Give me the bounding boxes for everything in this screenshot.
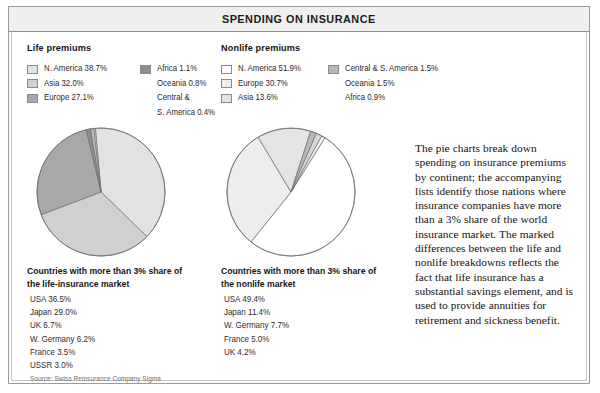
legend-swatch-asia [221, 94, 232, 103]
legend-label: Africa 0.9% [345, 92, 385, 104]
legend-label: Europe 30.7% [238, 78, 288, 90]
life-legend-column-1: N. America 38.7% Asia 32.0% Europe 27.1% [27, 63, 140, 121]
country-list-item: USA 36.5% [27, 293, 205, 306]
legend-label: N. America 38.7% [44, 63, 107, 75]
nonlife-country-items: USA 49.4%Japan 11.4%W. Germany 7.7%Franc… [221, 293, 411, 359]
country-list-item: USA 49.4% [221, 293, 403, 306]
country-list-item: France 5.0% [221, 333, 403, 346]
legend-item: Europe 30.7% [221, 78, 328, 93]
legend-swatch-spacer [328, 79, 339, 88]
legend-swatch-asia [27, 79, 38, 88]
life-legend: N. America 38.7% Asia 32.0% Europe 27.1%… [27, 63, 218, 121]
legend-label: Europe 27.1% [44, 92, 94, 104]
legend-swatch-spacer [140, 79, 151, 88]
legend-item: Africa 0.9% [328, 92, 442, 107]
legend-swatch-n-america [221, 65, 232, 74]
nonlife-premiums-heading: Nonlife premiums [221, 42, 300, 53]
legend-swatch-spacer [140, 94, 151, 103]
legend-label: Asia 32.0% [44, 78, 84, 90]
legend-item: S. America 0.4% [140, 107, 218, 122]
legend-item: N. America 51.9% [221, 63, 328, 78]
legend-item: Africa 1.1% [140, 63, 218, 78]
nonlife-legend: N. America 51.9% Europe 30.7% Asia 13.6%… [221, 63, 442, 107]
legend-swatch-n-america [27, 65, 38, 74]
country-list-item: UK 4.2% [221, 346, 403, 359]
nonlife-legend-column-2: Central & S. America 1.5% Oceania 1.5% A… [328, 63, 442, 107]
nonlife-country-list: Countries with more than 3% share of the… [221, 265, 411, 359]
legend-item: Asia 32.0% [27, 78, 140, 93]
legend-swatch-spacer [140, 108, 151, 117]
legend-item: Central & [140, 92, 218, 107]
legend-item: Asia 13.6% [221, 92, 328, 107]
legend-item: Oceania 0.8% [140, 78, 218, 93]
country-list-item: France 3.5% [27, 346, 205, 359]
legend-swatch-europe [27, 94, 38, 103]
nonlife-list-title-line1: Countries with more than 3% share of [221, 265, 402, 278]
legend-label: S. America 0.4% [157, 107, 215, 119]
legend-swatch-central-s-america [328, 65, 339, 74]
country-list-item: USSR 3.0% [27, 359, 205, 372]
legend-label: Oceania 0.8% [157, 78, 206, 90]
country-list-item: Japan 11.4% [221, 306, 403, 319]
country-list-item: W. Germany 7.7% [221, 319, 403, 332]
nonlife-list-title-line2: the nonlife market [221, 278, 402, 291]
legend-label: Central & [157, 92, 190, 104]
life-legend-column-2: Africa 1.1% Oceania 0.8% Central & S. Am… [140, 63, 218, 121]
life-list-title-line2: the life-insurance market [27, 278, 203, 291]
title-band: SPENDING ON INSURANCE [9, 7, 589, 32]
source-note: Source: Swiss Reinsurance Company Sigma [27, 373, 206, 384]
life-country-list: Countries with more than 3% share of the… [27, 265, 212, 384]
country-list-item: Japan 29.0% [27, 306, 205, 319]
nonlife-pie-svg [225, 126, 357, 258]
country-list-item: W. Germany 6.2% [27, 333, 205, 346]
content-area: Life premiums N. America 38.7% Asia 32.0… [9, 33, 589, 383]
legend-swatch-spacer [328, 94, 339, 103]
nonlife-legend-column-1: N. America 51.9% Europe 30.7% Asia 13.6% [221, 63, 328, 107]
life-pie-svg [35, 126, 167, 258]
legend-label: Oceania 1.5% [345, 78, 394, 90]
legend-swatch-africa [140, 65, 151, 74]
legend-item: N. America 38.7% [27, 63, 140, 78]
life-country-items: USA 36.5%Japan 29.0%UK 6.7%W. Germany 6.… [27, 293, 212, 372]
legend-item: Oceania 1.5% [328, 78, 442, 93]
legend-item: Europe 27.1% [27, 92, 140, 107]
country-list-item: UK 6.7% [27, 319, 205, 332]
life-premiums-pie-chart [35, 126, 167, 262]
description-text: The pie charts break down spending on in… [415, 141, 578, 327]
legend-label: Asia 13.6% [238, 92, 278, 104]
page-title: SPENDING ON INSURANCE [222, 13, 376, 25]
legend-item: Central & S. America 1.5% [328, 63, 442, 78]
legend-label: Africa 1.1% [157, 63, 197, 75]
life-list-title-line1: Countries with more than 3% share of [27, 265, 203, 278]
life-premiums-heading: Life premiums [27, 42, 91, 53]
nonlife-premiums-pie-chart [225, 126, 357, 262]
legend-label: N. America 51.9% [238, 63, 301, 75]
legend-label: Central & S. America 1.5% [345, 63, 438, 75]
legend-swatch-europe [221, 79, 232, 88]
